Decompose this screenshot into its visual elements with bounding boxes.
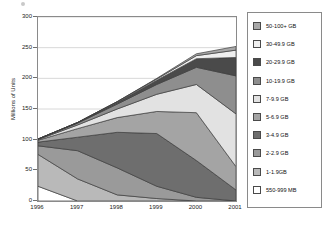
- legend-item-label: 10-19.9 GB: [266, 78, 295, 84]
- legend-item[interactable]: 50-100+ GB: [253, 17, 318, 35]
- y-axis-title: Millions of Units: [10, 59, 16, 139]
- x-axis-tick-label: 1999: [149, 204, 162, 210]
- legend-swatch-icon: [253, 22, 261, 30]
- legend-swatch-icon: [253, 58, 261, 66]
- legend-item[interactable]: 550-999 MB: [253, 181, 318, 199]
- legend-swatch-icon: [253, 95, 261, 103]
- legend-item-label: 2-2.9 GB: [266, 150, 288, 156]
- x-axis-tick-label: 1996: [30, 204, 43, 210]
- legend-item-label: 1-1.9GB: [266, 169, 287, 175]
- y-axis-tick-label: 200: [22, 74, 32, 80]
- y-axis-tick-label: 100: [22, 136, 32, 142]
- chart-screenshot: Millions of Units 300250200150100500 199…: [0, 0, 324, 225]
- stacked-area-plot: [38, 17, 236, 201]
- y-axis-tick-label: 300: [22, 13, 32, 19]
- y-axis-tick-label: 50: [25, 166, 32, 172]
- legend-item-label: 20-29.9 GB: [266, 59, 295, 65]
- legend-item[interactable]: 5-6.9 GB: [253, 108, 318, 126]
- legend-item[interactable]: 7-9.9 GB: [253, 90, 318, 108]
- legend-item-label: 550-999 MB: [266, 187, 296, 193]
- y-axis-tick-label: 250: [22, 44, 32, 50]
- y-axis-tick-label: 0: [29, 197, 32, 203]
- legend-swatch-icon: [253, 113, 261, 121]
- legend-swatch-icon: [253, 77, 261, 85]
- legend-item-label: 5-6.9 GB: [266, 114, 288, 120]
- legend-item-label: 30-49.9 GB: [266, 41, 295, 47]
- legend-swatch-icon: [253, 168, 261, 176]
- legend-item-label: 7-9.9 GB: [266, 96, 288, 102]
- legend-item[interactable]: 30-49.9 GB: [253, 35, 318, 53]
- legend-item[interactable]: 3-4.9 GB: [253, 126, 318, 144]
- legend-swatch-icon: [253, 131, 261, 139]
- x-axis: 199619971998199920002001: [37, 204, 237, 218]
- legend-item-label: 3-4.9 GB: [266, 132, 288, 138]
- legend-item-label: 50-100+ GB: [266, 23, 296, 29]
- legend-item[interactable]: 1-1.9GB: [253, 163, 318, 181]
- legend-item[interactable]: 10-19.9 GB: [253, 72, 318, 90]
- legend-item[interactable]: 20-29.9 GB: [253, 53, 318, 71]
- legend-swatch-icon: [253, 149, 261, 157]
- chart-legend: 50-100+ GB30-49.9 GB20-29.9 GB10-19.9 GB…: [247, 12, 322, 208]
- legend-swatch-icon: [253, 186, 261, 194]
- x-axis-tick-label: 1998: [110, 204, 123, 210]
- x-axis-tick-label: 1997: [70, 204, 83, 210]
- legend-item[interactable]: 2-2.9 GB: [253, 144, 318, 162]
- legend-swatch-icon: [253, 40, 261, 48]
- y-axis-tick-label: 150: [22, 105, 32, 111]
- plot-area: [37, 16, 237, 202]
- x-axis-tick-label: 2000: [189, 204, 202, 210]
- x-axis-tick-label: 2001: [228, 204, 241, 210]
- y-axis: Millions of Units 300250200150100500: [0, 0, 37, 225]
